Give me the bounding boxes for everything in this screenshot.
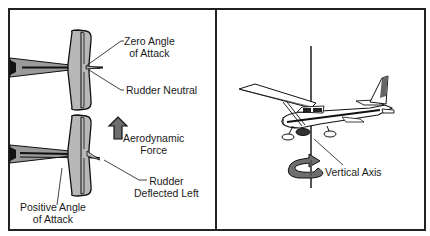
- tail-top-view: [10, 30, 124, 110]
- label-zero-angle-of-attack: Zero Angle of Attack: [124, 35, 175, 59]
- label-positive-angle-of-attack: Positive Angle of Attack: [20, 201, 86, 225]
- label-line: Force: [123, 144, 184, 156]
- label-line: Rudder: [134, 175, 199, 187]
- label-line: Aerodynamic: [123, 132, 184, 144]
- tail-bottom-view: [10, 115, 147, 205]
- label-rudder-neutral: Rudder Neutral: [126, 84, 197, 96]
- label-line: Deflected Left: [134, 187, 199, 199]
- label-line: of Attack: [20, 213, 86, 225]
- label-line: Positive Angle: [20, 201, 86, 213]
- label-aerodynamic-force: Aerodynamic Force: [123, 132, 184, 156]
- label-vertical-axis: Vertical Axis: [325, 166, 382, 178]
- label-line: Zero Angle: [124, 35, 175, 47]
- label-rudder-deflected-left: Rudder Deflected Left: [134, 175, 199, 199]
- label-line: of Attack: [124, 47, 175, 59]
- yaw-rotation-arrow: [288, 154, 323, 178]
